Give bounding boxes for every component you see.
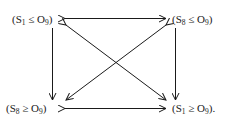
node-rhs-subscript: 9	[205, 18, 209, 27]
node-bottom-left: (S8 ≥ O9)	[6, 101, 46, 115]
node-bottom-right: (S1 ≥ O9).	[172, 101, 215, 115]
node-top-right: (S8 ≤ O9)	[172, 12, 212, 26]
node-relation: ≤	[28, 13, 34, 25]
node-relation: ≤	[188, 13, 194, 25]
node-rhs-subscript: 9	[39, 107, 43, 116]
node-rhs: O	[31, 102, 39, 114]
node-rhs: O	[197, 13, 205, 25]
node-rhs-subscript: 9	[45, 18, 49, 27]
node-rhs: O	[37, 13, 45, 25]
node-rhs-subscript: 9	[205, 107, 209, 116]
node-relation: ≥	[22, 102, 28, 114]
node-relation: ≥	[188, 102, 194, 114]
node-suffix: .	[212, 102, 215, 114]
node-lhs-subscript: 8	[16, 107, 20, 116]
node-lhs-subscript: 1	[182, 107, 186, 116]
node-rhs: O	[197, 102, 205, 114]
node-lhs-subscript: 8	[182, 18, 186, 27]
node-top-left: (S1 ≤ O9)	[12, 12, 52, 26]
node-lhs-subscript: 1	[22, 18, 26, 27]
